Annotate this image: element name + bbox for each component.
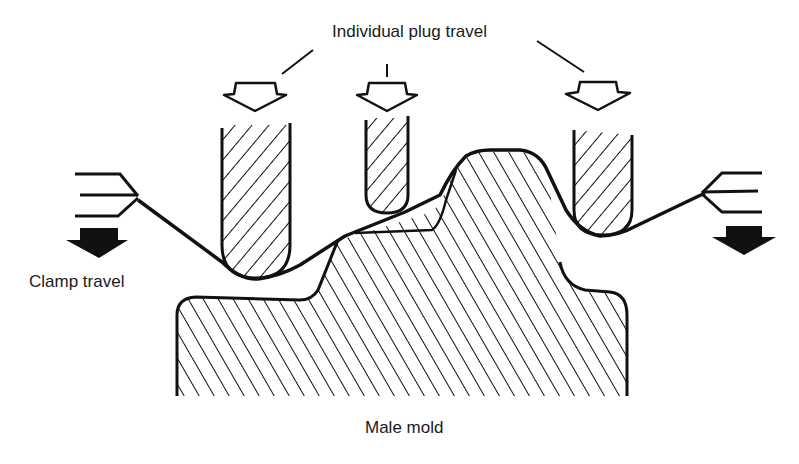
right-clamp bbox=[702, 173, 762, 212]
middle-plug-arrow-icon bbox=[357, 83, 417, 111]
plug-travel-label: Individual plug travel bbox=[332, 22, 487, 42]
plug-travel-leaders bbox=[282, 41, 584, 77]
left-plug bbox=[222, 123, 290, 278]
right-plug-arrow-icon bbox=[566, 82, 630, 110]
male-mold-label: Male mold bbox=[365, 418, 443, 438]
clamp-travel-label: Clamp travel bbox=[29, 272, 124, 292]
left-clamp-arrow-icon bbox=[66, 228, 128, 258]
left-clamp bbox=[75, 174, 138, 216]
left-plug-arrow-icon bbox=[224, 83, 286, 111]
middle-plug bbox=[366, 116, 408, 213]
right-clamp-arrow-icon bbox=[712, 226, 776, 255]
diagram-canvas bbox=[0, 0, 799, 464]
right-plug bbox=[574, 130, 632, 235]
